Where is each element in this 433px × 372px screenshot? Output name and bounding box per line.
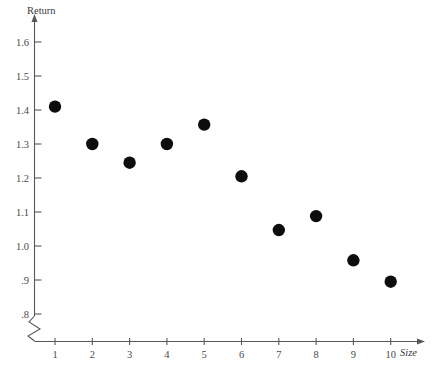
y-tick-label: 1.3 bbox=[16, 139, 29, 150]
x-tick-label: 1 bbox=[52, 349, 57, 360]
data-point-marker bbox=[123, 157, 135, 169]
data-point-marker bbox=[86, 138, 98, 150]
data-point-marker bbox=[385, 276, 397, 288]
x-tick-label: 6 bbox=[239, 349, 244, 360]
data-point-marker bbox=[347, 254, 359, 266]
x-tick-label: 5 bbox=[202, 349, 207, 360]
y-tick-label: 1.1 bbox=[16, 207, 29, 218]
x-axis-title: Size bbox=[400, 347, 417, 358]
y-tick-label: 1.0 bbox=[16, 241, 29, 252]
y-tick-label: 1.5 bbox=[16, 71, 29, 82]
x-tick-label: 2 bbox=[90, 349, 95, 360]
y-axis-ticks: .8.91.01.11.21.31.41.51.6 bbox=[16, 37, 42, 320]
y-tick-label: .9 bbox=[21, 275, 29, 286]
data-point-marker bbox=[235, 170, 247, 182]
x-tick-label: 4 bbox=[164, 349, 170, 360]
x-tick-label: 3 bbox=[127, 349, 132, 360]
plot-area: Return Size .8.91.01.11.21.31.41.51.6 12… bbox=[0, 0, 433, 372]
x-tick-label: 10 bbox=[385, 349, 396, 360]
x-axis-arrow-icon bbox=[417, 339, 425, 345]
data-point-marker bbox=[161, 138, 173, 150]
data-point-marker bbox=[310, 210, 322, 222]
y-tick-label: 1.4 bbox=[16, 105, 30, 116]
y-axis-break-icon bbox=[28, 316, 40, 341]
scatter-chart-figure: Return Size .8.91.01.11.21.31.41.51.6 12… bbox=[0, 0, 433, 372]
y-tick-label: 1.2 bbox=[16, 173, 29, 184]
data-point-marker bbox=[273, 224, 285, 236]
x-tick-label: 9 bbox=[351, 349, 356, 360]
data-point-marker bbox=[198, 118, 210, 130]
y-tick-label: .8 bbox=[21, 309, 29, 320]
y-tick-label: 1.6 bbox=[16, 37, 29, 48]
data-points-group bbox=[49, 100, 397, 288]
x-tick-label: 8 bbox=[313, 349, 318, 360]
x-tick-label: 7 bbox=[276, 349, 281, 360]
data-point-marker bbox=[49, 100, 61, 112]
y-axis-title: Return bbox=[27, 5, 56, 16]
